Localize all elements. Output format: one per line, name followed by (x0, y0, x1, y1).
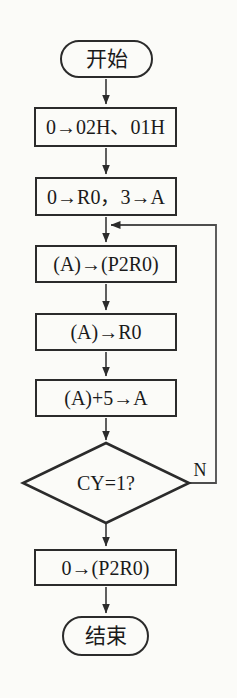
node-label: 结束 (85, 626, 127, 647)
node-end-terminal: 结束 (62, 616, 149, 656)
node-label: 0→R0，3→A (47, 187, 165, 207)
node-label: 0→(P2R0) (62, 558, 150, 578)
node-label: 开始 (86, 49, 128, 70)
node-process-store: (A)→(P2R0) (35, 245, 177, 283)
node-label: CY=1? (77, 472, 135, 494)
node-label: 0→02H、01H (46, 117, 165, 137)
node-process-init-reg: 0→R0，3→A (35, 177, 177, 216)
node-start-terminal: 开始 (60, 40, 153, 78)
node-label: (A)+5→A (64, 388, 148, 408)
branch-label-n: N (189, 461, 211, 479)
node-label: (A)→(P2R0) (53, 254, 159, 274)
node-decision-label: CY=1? (35, 472, 177, 494)
node-process-add: (A)+5→A (35, 379, 177, 417)
flowchart-canvas: 开始 0→02H、01H 0→R0，3→A (A)→(P2R0) (A)→R0 … (0, 0, 237, 698)
node-process-clear: 0→(P2R0) (34, 549, 177, 586)
node-process-init-mem: 0→02H、01H (34, 107, 177, 147)
node-process-move: (A)→R0 (35, 313, 177, 351)
node-label: (A)→R0 (70, 322, 141, 342)
